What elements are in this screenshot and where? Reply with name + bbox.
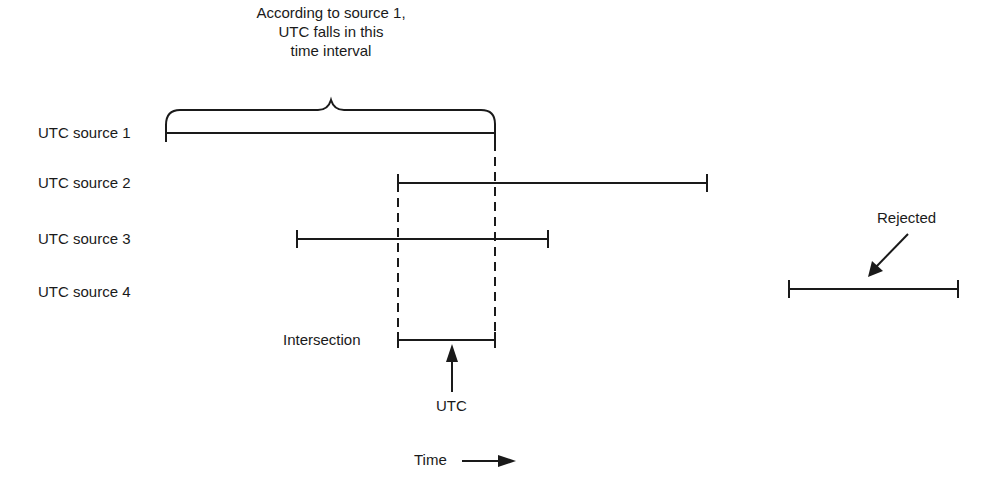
annotation-line-2: UTC falls in this bbox=[236, 22, 426, 41]
interval-source-3 bbox=[297, 230, 548, 248]
label-rejected: Rejected bbox=[877, 209, 936, 226]
interval-source-2 bbox=[398, 174, 707, 192]
interval-intersection bbox=[398, 332, 495, 348]
interval-source-1 bbox=[166, 124, 495, 142]
rejected-arrow-shaft bbox=[875, 234, 908, 268]
utc-arrowhead-icon bbox=[446, 344, 458, 362]
label-time: Time bbox=[414, 451, 447, 468]
label-intersection: Intersection bbox=[283, 331, 361, 348]
label-utc: UTC bbox=[436, 397, 467, 414]
time-arrowhead-icon bbox=[498, 455, 516, 467]
annotation-line-1: According to source 1, bbox=[236, 3, 426, 22]
annotation-line-3: time interval bbox=[236, 41, 426, 60]
label-source-2: UTC source 2 bbox=[38, 174, 131, 191]
brace-source-1 bbox=[166, 100, 495, 125]
label-source-3: UTC source 3 bbox=[38, 230, 131, 247]
source-1-annotation: According to source 1, UTC falls in this… bbox=[236, 3, 426, 60]
label-source-1: UTC source 1 bbox=[38, 124, 131, 141]
interval-source-4 bbox=[789, 280, 958, 298]
diagram-canvas bbox=[0, 0, 1000, 484]
label-source-4: UTC source 4 bbox=[38, 283, 131, 300]
